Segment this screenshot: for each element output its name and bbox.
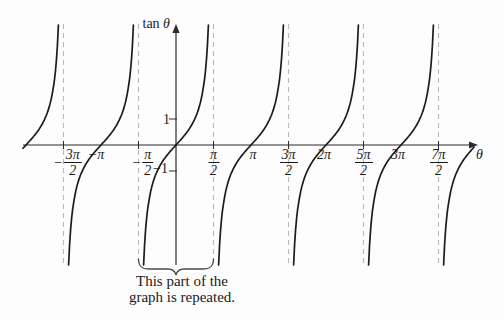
- x-tick-label: π2: [208, 147, 219, 178]
- period-annotation: This part of the graph is repeated.: [88, 273, 276, 305]
- fraction-numerator: 3π: [279, 147, 297, 163]
- fraction-denominator: 2: [358, 163, 369, 178]
- x-tick-label: 3π: [391, 147, 405, 163]
- x-tick-label: 5π2: [354, 147, 372, 178]
- fraction-numerator: π: [142, 147, 153, 163]
- tan-curve-branch: [444, 147, 474, 265]
- y-axis-arrowhead: [172, 24, 179, 33]
- x-tick-label: −π: [88, 147, 104, 163]
- x-tick-label: 2π: [317, 147, 331, 163]
- y-axis-title: tan θ: [143, 16, 171, 31]
- x-tick-label: −3π2: [53, 147, 81, 178]
- x-tick-fraction: π2: [142, 147, 153, 178]
- x-tick-label: π: [249, 147, 256, 163]
- x-tick-label: 7π2: [429, 147, 447, 178]
- x-tick-fraction: π2: [208, 147, 219, 178]
- period-annotation-line1: This part of the: [88, 273, 276, 289]
- y-axis-title-function: tan: [143, 16, 160, 31]
- fraction-numerator: π: [208, 147, 219, 163]
- x-tick-minus-sign: −: [53, 155, 62, 170]
- fraction-numerator: 5π: [354, 147, 372, 163]
- fraction-denominator: 2: [433, 163, 444, 178]
- y-tick-label-plus1: 1: [146, 112, 170, 127]
- tan-curve-branch: [23, 25, 58, 148]
- x-tick-label: 3π2: [279, 147, 297, 178]
- x-tick-fraction: 3π2: [64, 147, 82, 178]
- x-tick-fraction: 7π2: [429, 147, 447, 178]
- fraction-denominator: 2: [208, 163, 219, 178]
- fraction-numerator: 3π: [64, 147, 82, 163]
- fraction-denominator: 2: [283, 163, 294, 178]
- x-tick-fraction: 3π2: [279, 147, 297, 178]
- x-tick-label: −π2: [132, 147, 153, 178]
- fraction-denominator: 2: [67, 163, 78, 178]
- y-axis-title-variable: θ: [163, 16, 170, 31]
- fraction-denominator: 2: [142, 163, 153, 178]
- x-tick-minus-sign: −: [132, 155, 141, 170]
- x-tick-fraction: 5π2: [354, 147, 372, 178]
- x-axis-title: θ: [476, 147, 483, 162]
- tangent-graph-figure: tan θ θ 1 −1 −3π2−π−π2π2π3π22π5π23π7π2 T…: [0, 0, 504, 320]
- fraction-numerator: 7π: [429, 147, 447, 163]
- period-annotation-line2: graph is repeated.: [88, 289, 276, 305]
